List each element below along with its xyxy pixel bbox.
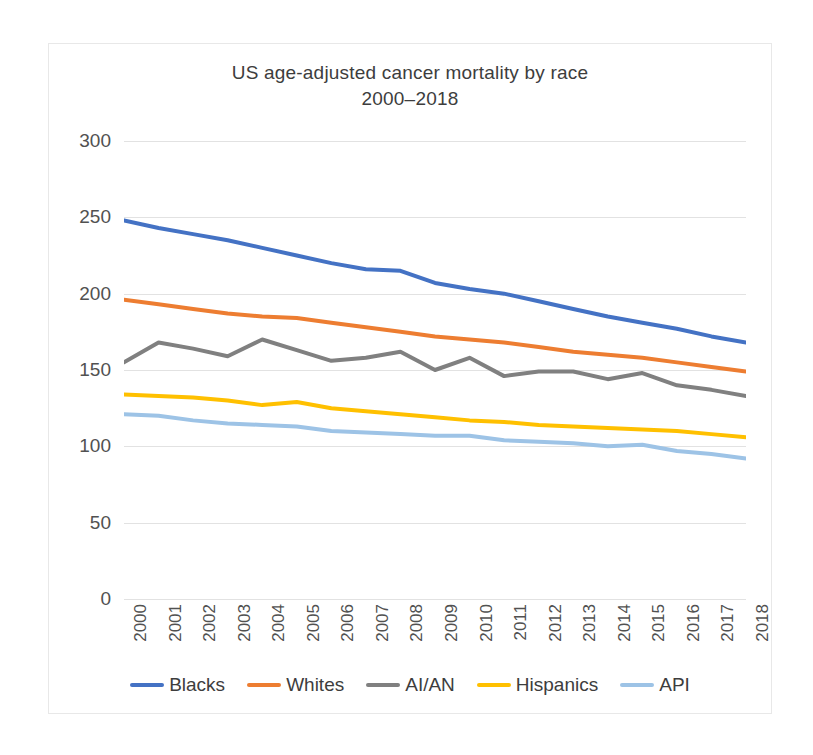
plot-area [124, 141, 746, 599]
x-axis-tick-label: 2013 [580, 604, 600, 642]
x-axis-tick-label: 2008 [407, 604, 427, 642]
x-axis-tick-label: 2003 [235, 604, 255, 642]
x-axis-tick-label: 2010 [477, 604, 497, 642]
y-axis-tick-label: 50 [90, 512, 111, 534]
x-axis-tick-label: 2002 [200, 604, 220, 642]
series-line-hispanics [124, 394, 746, 437]
x-axis-tick-label: 2014 [615, 604, 635, 642]
series-line-blacks [124, 220, 746, 342]
legend-swatch-icon [366, 683, 400, 687]
x-axis-tick-label: 2001 [166, 604, 186, 642]
y-axis-tick-label: 200 [79, 283, 111, 305]
x-axis-tick-label: 2006 [338, 604, 358, 642]
series-line-whites [124, 300, 746, 372]
y-axis: 050100150200250300 [49, 141, 111, 599]
legend-swatch-icon [130, 683, 164, 687]
x-axis-tick-label: 2011 [511, 604, 531, 641]
legend-swatch-icon [247, 683, 281, 687]
legend-label: Whites [286, 674, 344, 696]
x-axis-tick-label: 2004 [269, 604, 289, 642]
legend-item-ai-an[interactable]: AI/AN [366, 674, 455, 696]
legend-item-whites[interactable]: Whites [247, 674, 344, 696]
x-axis: 2000200120022003200420052006200720082009… [124, 604, 746, 684]
x-axis-tick-label: 2017 [718, 604, 738, 642]
legend-item-hispanics[interactable]: Hispanics [477, 674, 598, 696]
legend-swatch-icon [477, 683, 511, 687]
y-axis-tick-label: 250 [79, 206, 111, 228]
series-line-api [124, 414, 746, 458]
series-line-ai-an [124, 339, 746, 395]
chart-title: US age-adjusted cancer mortality by race… [49, 60, 771, 112]
x-axis-tick-label: 2009 [442, 604, 462, 642]
legend-label: Hispanics [516, 674, 598, 696]
legend-item-api[interactable]: API [620, 674, 690, 696]
x-axis-tick-label: 2018 [753, 604, 773, 642]
chart-card: US age-adjusted cancer mortality by race… [48, 43, 772, 714]
chart-title-line-2: 2000–2018 [49, 86, 771, 112]
x-axis-tick-label: 2000 [131, 604, 151, 642]
y-axis-tick-label: 0 [100, 588, 111, 610]
x-axis-tick-label: 2016 [684, 604, 704, 642]
chart-legend: BlacksWhitesAI/ANHispanicsAPI [49, 674, 771, 696]
x-axis-tick-label: 2012 [546, 604, 566, 642]
legend-label: AI/AN [405, 674, 455, 696]
x-axis-tick-label: 2007 [373, 604, 393, 642]
legend-item-blacks[interactable]: Blacks [130, 674, 225, 696]
x-axis-tick-label: 2015 [649, 604, 669, 642]
legend-label: Blacks [169, 674, 225, 696]
plot-lines [124, 141, 746, 599]
legend-swatch-icon [620, 683, 654, 687]
chart-title-line-1: US age-adjusted cancer mortality by race [49, 60, 771, 86]
x-axis-tick-label: 2005 [304, 604, 324, 642]
y-axis-tick-label: 150 [79, 359, 111, 381]
y-axis-tick-label: 300 [79, 130, 111, 152]
gridline [124, 599, 746, 600]
legend-label: API [659, 674, 690, 696]
y-axis-tick-label: 100 [79, 435, 111, 457]
